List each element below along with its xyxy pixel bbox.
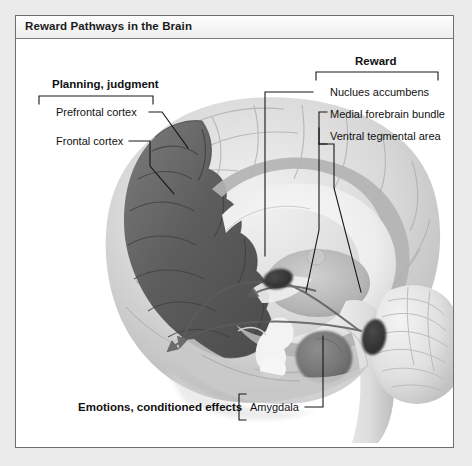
label-emotions-conditioned-effects: Emotions, conditioned effects bbox=[78, 401, 242, 413]
figure-frame: Reward Pathways in the Brain bbox=[15, 15, 454, 448]
label-frontal-cortex: Frontal cortex bbox=[56, 135, 123, 147]
label-nucleus-accumbens: Nuclues accumbens bbox=[330, 86, 429, 98]
label-ventral-tegmental-area: Ventral tegmental area bbox=[330, 130, 441, 142]
label-amygdala: Amygdala bbox=[250, 401, 299, 413]
label-reward: Reward bbox=[355, 55, 397, 67]
label-planning-judgment: Planning, judgment bbox=[52, 78, 159, 90]
label-prefrontal-cortex: Prefrontal cortex bbox=[56, 106, 137, 118]
page-title: Reward Pathways in the Brain bbox=[25, 20, 192, 32]
brain-illustration bbox=[16, 39, 453, 447]
figure-title-bar: Reward Pathways in the Brain bbox=[16, 16, 453, 39]
label-medial-forebrain-bundle: Medial forebrain bundle bbox=[330, 108, 445, 120]
